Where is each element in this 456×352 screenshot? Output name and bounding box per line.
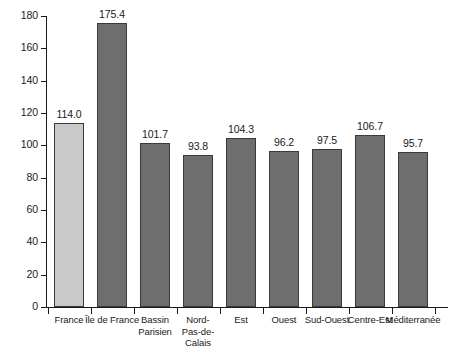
bar bbox=[140, 143, 170, 307]
y-tick-label: 60 bbox=[4, 203, 38, 215]
y-tick-label: 100 bbox=[4, 138, 38, 150]
y-tick-label: 140 bbox=[4, 74, 38, 86]
bar bbox=[54, 123, 84, 307]
y-tick-mark bbox=[41, 81, 47, 82]
bar bbox=[355, 135, 385, 307]
x-axis-line bbox=[46, 307, 448, 308]
y-tick-label: 120 bbox=[4, 106, 38, 118]
y-tick-mark bbox=[41, 275, 47, 276]
y-tick-mark bbox=[41, 48, 47, 49]
y-tick-label: 0 bbox=[4, 300, 38, 312]
y-tick-mark bbox=[41, 178, 47, 179]
bar-chart: 020406080100120140160180 114.0175.4101.7… bbox=[0, 0, 456, 352]
bar-value-label: 97.5 bbox=[300, 134, 354, 146]
bar-value-label: 114.0 bbox=[42, 108, 96, 120]
y-tick-label: 180 bbox=[4, 9, 38, 21]
y-tick-mark bbox=[41, 210, 47, 211]
y-tick-mark bbox=[41, 145, 47, 146]
bar bbox=[97, 23, 127, 307]
bar-value-label: 175.4 bbox=[85, 8, 139, 20]
y-tick-label: 80 bbox=[4, 171, 38, 183]
y-tick-mark bbox=[41, 16, 47, 17]
bar-value-label: 93.8 bbox=[171, 140, 225, 152]
bar bbox=[269, 151, 299, 307]
y-tick-mark bbox=[41, 242, 47, 243]
bar-value-label: 104.3 bbox=[214, 123, 268, 135]
bar-value-label: 106.7 bbox=[343, 120, 397, 132]
y-tick-mark bbox=[41, 307, 47, 308]
y-axis-line bbox=[46, 16, 47, 308]
y-tick-label: 40 bbox=[4, 235, 38, 247]
bar-value-label: 101.7 bbox=[128, 128, 182, 140]
bar bbox=[226, 138, 256, 307]
bar bbox=[398, 152, 428, 307]
bar-value-label: 95.7 bbox=[386, 137, 440, 149]
y-tick-label: 20 bbox=[4, 268, 38, 280]
y-tick-label: 160 bbox=[4, 41, 38, 53]
category-label: Méditerranée bbox=[384, 314, 442, 326]
bar bbox=[183, 155, 213, 307]
bar bbox=[312, 149, 342, 307]
